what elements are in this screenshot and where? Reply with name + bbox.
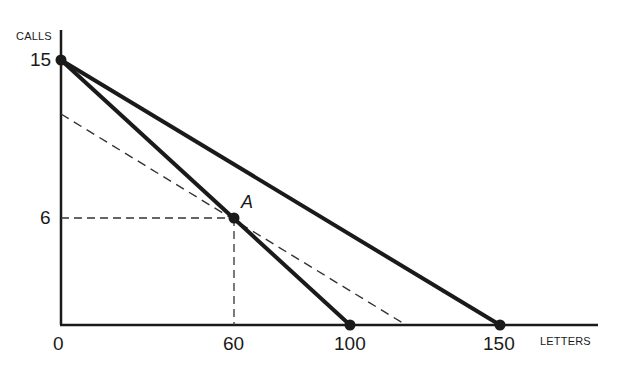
marker-point-a xyxy=(229,213,240,224)
x-tick-150: 150 xyxy=(483,333,515,355)
y-tick-6: 6 xyxy=(40,207,51,229)
marker-x100 xyxy=(345,320,356,331)
y-axis-title: CALLS xyxy=(16,30,52,42)
budget-line-150 xyxy=(61,60,500,325)
x-tick-0: 0 xyxy=(53,333,64,355)
x-tick-60: 60 xyxy=(223,333,244,355)
x-tick-100: 100 xyxy=(334,333,366,355)
x-axis-title: LETTERS xyxy=(540,335,591,347)
marker-y15 xyxy=(56,55,67,66)
marker-x150 xyxy=(495,320,506,331)
y-tick-15: 15 xyxy=(30,49,51,71)
chart-canvas xyxy=(0,0,630,380)
budget-line-100 xyxy=(61,60,350,325)
point-a-label: A xyxy=(241,192,253,213)
